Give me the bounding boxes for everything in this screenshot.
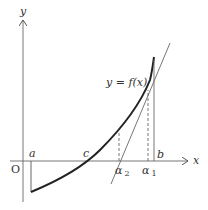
x-axis-label: x <box>193 154 200 167</box>
tangent-line <box>111 43 170 184</box>
y-axis-label: y <box>19 5 27 18</box>
point-label-alpha1: α1 <box>142 164 157 178</box>
point-label-b: b <box>157 148 164 161</box>
point-label-c: c <box>83 147 89 160</box>
point-label-a: a <box>29 147 36 160</box>
point-label-alpha2: α2 <box>115 164 130 178</box>
origin-label: O <box>11 163 20 176</box>
curve-label: y = f(x) <box>105 76 147 89</box>
newton-method-diagram: y x O y = f(x) a c b α2 α1 <box>0 0 208 210</box>
